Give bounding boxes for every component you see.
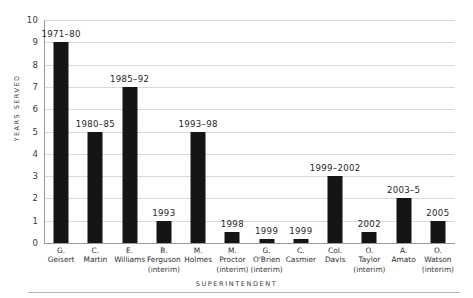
bar	[88, 132, 103, 244]
x-tick-interim: (interim)	[147, 265, 181, 274]
bar-slot: 1971–80	[44, 20, 78, 243]
bar	[293, 239, 308, 244]
x-tick-initial: Col.	[318, 246, 352, 255]
x-tick-surname: Ferguson	[147, 255, 181, 264]
bar-value-label: 1998	[221, 219, 244, 229]
x-tick-interim: (interim)	[215, 265, 249, 274]
x-tick-surname: Martin	[78, 255, 112, 264]
bar	[225, 232, 240, 243]
x-tick-label: C.Casmier	[284, 246, 318, 265]
x-tick-surname: Casmier	[284, 255, 318, 264]
x-tick-label: O.Watson(interim)	[421, 246, 455, 274]
bar-slot: 2002	[352, 20, 386, 243]
bar	[396, 198, 411, 243]
bar-slot: 1985–92	[113, 20, 147, 243]
y-tick-label-4: 4	[12, 149, 38, 159]
x-tick-surname: Taylor	[352, 255, 386, 264]
footer-rule	[28, 292, 460, 293]
bar-value-label: 1985–92	[110, 74, 149, 84]
bar-value-label: 1999	[289, 226, 312, 236]
x-tick-label: Col.Davis	[318, 246, 352, 265]
bar-slot: 1993–98	[181, 20, 215, 243]
bar-value-label: 1993	[152, 208, 175, 218]
bar	[54, 42, 69, 243]
bar-value-label: 1993–98	[179, 119, 218, 129]
x-tick-initial: O.	[421, 246, 455, 255]
bar-slot: 1999	[250, 20, 284, 243]
bar-slot: 1993	[147, 20, 181, 243]
x-tick-surname: Proctor	[215, 255, 249, 264]
x-tick-label: B.Ferguson(interim)	[147, 246, 181, 274]
x-tick-label: C.Martin	[78, 246, 112, 265]
gridline-0	[44, 243, 455, 244]
x-tick-interim: (interim)	[250, 265, 284, 274]
x-tick-initial: A.	[387, 246, 421, 255]
x-tick-label: G.Geisert	[44, 246, 78, 265]
bar	[430, 221, 445, 243]
x-tick-initial: O.	[352, 246, 386, 255]
y-axis-ticks: 109876543210	[0, 20, 38, 243]
x-tick-initial: C.	[78, 246, 112, 255]
x-tick-initial: M.	[215, 246, 249, 255]
x-tick-initial: G.	[44, 246, 78, 255]
bar-slot: 1999	[284, 20, 318, 243]
bar	[191, 132, 206, 244]
y-tick-label-0: 0	[12, 238, 38, 248]
x-tick-surname: Amato	[387, 255, 421, 264]
x-tick-surname: Holmes	[181, 255, 215, 264]
x-tick-surname: Geisert	[44, 255, 78, 264]
bar-value-label: 1980–85	[76, 119, 115, 129]
y-tick-label-10: 10	[12, 15, 38, 25]
bar-slot: 2003–5	[387, 20, 421, 243]
x-tick-label: E.Williams	[113, 246, 147, 265]
bar	[362, 232, 377, 243]
bar-chart-figure: YEARS SERVED 109876543210 1971–801980–85…	[0, 0, 473, 298]
x-tick-initial: C.	[284, 246, 318, 255]
bar-series: 1971–801980–851985–9219931993–9819981999…	[44, 20, 455, 243]
bar	[156, 221, 171, 243]
y-tick-label-6: 6	[12, 104, 38, 114]
x-tick-initial: M.	[181, 246, 215, 255]
bar-value-label: 2003–5	[387, 185, 420, 195]
x-axis-ticks: G.GeisertC.MartinE.WilliamsB.Ferguson(in…	[44, 246, 455, 280]
y-tick-label-7: 7	[12, 82, 38, 92]
y-tick-label-3: 3	[12, 171, 38, 181]
x-tick-label: G.O'Brien(interim)	[250, 246, 284, 274]
x-axis-title: SUPERINTENDENT	[0, 280, 473, 288]
x-tick-label: O.Taylor(interim)	[352, 246, 386, 274]
bar-slot: 1980–85	[78, 20, 112, 243]
y-tick-label-9: 9	[12, 37, 38, 47]
y-tick-label-5: 5	[12, 127, 38, 137]
bar-slot: 1999–2002	[318, 20, 352, 243]
bar-slot: 2005	[421, 20, 455, 243]
x-tick-label: M.Holmes	[181, 246, 215, 265]
bar	[259, 239, 274, 244]
x-tick-interim: (interim)	[421, 265, 455, 274]
x-tick-surname: Watson	[421, 255, 455, 264]
x-tick-surname: Davis	[318, 255, 352, 264]
x-tick-initial: B.	[147, 246, 181, 255]
x-tick-label: M.Proctor(interim)	[215, 246, 249, 274]
bar-value-label: 2002	[358, 219, 381, 229]
x-tick-surname: Williams	[113, 255, 147, 264]
x-tick-initial: G.	[250, 246, 284, 255]
y-tick-label-8: 8	[12, 60, 38, 70]
x-tick-label: A.Amato	[387, 246, 421, 265]
bar-value-label: 1971–80	[42, 29, 81, 39]
x-tick-initial: E.	[113, 246, 147, 255]
x-tick-surname: O'Brien	[250, 255, 284, 264]
bar-value-label: 1999	[255, 226, 278, 236]
bar-slot: 1998	[215, 20, 249, 243]
bar-value-label: 2005	[426, 208, 449, 218]
y-tick-label-2: 2	[12, 193, 38, 203]
bar	[122, 87, 137, 243]
y-tick-label-1: 1	[12, 216, 38, 226]
x-tick-interim: (interim)	[352, 265, 386, 274]
bar	[328, 176, 343, 243]
